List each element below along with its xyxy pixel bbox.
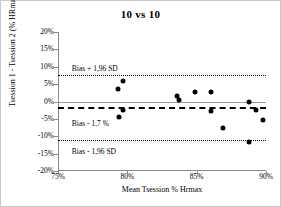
reference-line-zero	[58, 102, 266, 103]
chart-figure: 10 vs 10 20%15%10%5%0%-5%-10%-15%-20% Ts…	[0, 0, 281, 207]
y-axis-title: Tsession 1 - Tsession 2 (% HRmax)	[8, 0, 17, 115]
y-tick-label: 0%	[44, 98, 54, 106]
x-tick-mark	[127, 171, 128, 175]
data-point	[208, 89, 213, 94]
annotation-label: Bias - 1,7 %	[72, 120, 109, 128]
x-axis-title: Mean Tsession % Hrmax	[58, 185, 266, 194]
y-tick-label: 20%	[40, 28, 54, 36]
data-point	[247, 99, 252, 104]
data-point	[254, 108, 259, 113]
data-point	[193, 90, 198, 95]
data-point	[261, 117, 266, 122]
reference-line-upper-loa	[58, 75, 266, 76]
data-point	[176, 97, 181, 102]
annotation-label: Bias - 1,96 SD	[72, 148, 116, 156]
y-tick-label: -10%	[38, 133, 54, 141]
reference-line-bias	[58, 107, 266, 109]
y-tick-label: -5%	[42, 115, 55, 123]
y-tick-label: 10%	[40, 63, 54, 71]
data-point	[121, 79, 126, 84]
x-tick-mark	[266, 171, 267, 175]
data-point	[208, 108, 213, 113]
y-tick-label: -15%	[38, 150, 54, 158]
y-tick-label: 15%	[40, 46, 54, 54]
data-point	[117, 115, 122, 120]
x-tick-mark	[197, 171, 198, 175]
data-point	[247, 140, 252, 145]
data-point	[221, 125, 226, 130]
x-tick-mark	[58, 171, 59, 175]
plot-area: Bias + 1,96 SDBias - 1,7 %Bias - 1,96 SD	[58, 32, 266, 171]
y-tick-label: 5%	[44, 80, 54, 88]
data-point	[121, 107, 126, 112]
reference-line-lower-loa	[58, 140, 266, 141]
data-point	[115, 86, 120, 91]
annotation-label: Bias + 1,96 SD	[72, 65, 118, 73]
